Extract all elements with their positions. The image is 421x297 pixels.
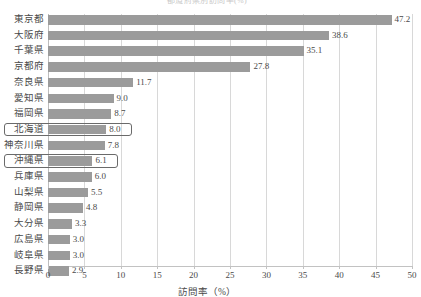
bar-row: 福岡県8.7: [0, 106, 414, 122]
category-label: 北海道: [0, 122, 44, 138]
category-label: 兵庫県: [0, 169, 44, 185]
bar-container: 35.1: [48, 43, 412, 59]
bar-container: 6.1: [48, 153, 412, 169]
category-label: 東京都: [0, 12, 44, 28]
bar-row: 京都府27.8: [0, 59, 414, 75]
bar-container: 3.3: [48, 216, 412, 232]
bar: [48, 31, 329, 41]
bar: [48, 188, 88, 198]
bar-value-label: 3.0: [70, 232, 84, 248]
bar-value-label: 7.8: [105, 138, 119, 154]
bar-row: 神奈川県7.8: [0, 138, 414, 154]
tickmark-30: [266, 266, 267, 269]
tickmark-40: [339, 266, 340, 269]
bar-row: 岐阜県3.0: [0, 248, 414, 264]
bar-row: 大阪府38.6: [0, 28, 414, 44]
bar-container: 9.0: [48, 91, 412, 107]
bar: [48, 94, 114, 104]
bar: [48, 46, 304, 56]
bar-value-label: 5.5: [88, 185, 102, 201]
bar-container: 7.8: [48, 138, 412, 154]
bar-value-label: 3.3: [72, 216, 86, 232]
bar: [48, 203, 83, 213]
bar-value-label: 47.2: [392, 12, 411, 28]
tickmark-20: [194, 266, 195, 269]
bar-value-label: 6.1: [92, 153, 106, 169]
bar-container: 11.7: [48, 75, 412, 91]
bar-container: 27.8: [48, 59, 412, 75]
bar-row: 奈良県11.7: [0, 75, 414, 91]
bar-value-label: 11.7: [133, 75, 151, 91]
bar-row: 長野県2.9: [0, 263, 414, 279]
tickmark-5: [84, 266, 85, 269]
bar: [48, 235, 70, 245]
x-tick-label: 40: [327, 270, 351, 280]
bar: [48, 219, 72, 229]
bar: [48, 251, 70, 261]
category-label: 神奈川県: [0, 138, 44, 154]
tickmark-15: [157, 266, 158, 269]
category-label: 大分県: [0, 216, 44, 232]
x-axis-title: 訪問率（%）: [0, 284, 414, 297]
bar-container: 3.0: [48, 232, 412, 248]
x-tick-label: 10: [109, 270, 133, 280]
bar-value-label: 27.8: [250, 59, 269, 75]
tickmark-25: [230, 266, 231, 269]
bar-value-label: 8.0: [106, 122, 120, 138]
category-label: 福岡県: [0, 106, 44, 122]
bar: [48, 141, 105, 151]
bar-row: 兵庫県6.0: [0, 169, 414, 185]
x-tick-label: 15: [145, 270, 169, 280]
bar-row: 静岡県4.8: [0, 200, 414, 216]
bar-value-label: 35.1: [304, 43, 323, 59]
category-label: 広島県: [0, 232, 44, 248]
x-tick-label: 50: [400, 270, 421, 280]
bar-container: 38.6: [48, 28, 412, 44]
bar: [48, 125, 106, 135]
category-label: 沖縄県: [0, 153, 44, 169]
bar-row: 愛知県9.0: [0, 91, 414, 107]
x-tick-label: 0: [36, 270, 60, 280]
bar-row: 千葉県35.1: [0, 43, 414, 59]
cut-off-title: 都道府県別訪問率(%): [0, 0, 414, 11]
bar-row: 沖縄県6.1: [0, 153, 414, 169]
category-label: 大阪府: [0, 28, 44, 44]
bar-row: 北海道8.0: [0, 122, 414, 138]
bar-row: 東京都47.2: [0, 12, 414, 28]
tickmark-35: [303, 266, 304, 269]
tickmark-45: [376, 266, 377, 269]
bar-container: 4.8: [48, 200, 412, 216]
category-label: 山梨県: [0, 185, 44, 201]
bar: [48, 78, 133, 88]
category-label: 奈良県: [0, 75, 44, 91]
bar-container: 8.0: [48, 122, 412, 138]
bar-container: 47.2: [48, 12, 412, 28]
tickmark-50: [412, 266, 413, 269]
x-tick-label: 35: [291, 270, 315, 280]
category-label: 愛知県: [0, 91, 44, 107]
bar-container: 3.0: [48, 248, 412, 264]
bar: [48, 109, 111, 119]
x-tick-label: 5: [72, 270, 96, 280]
bar-value-label: 38.6: [329, 28, 348, 44]
bar-container: 8.7: [48, 106, 412, 122]
bar-value-label: 9.0: [114, 91, 128, 107]
bar-container: 6.0: [48, 169, 412, 185]
bar-chart: 東京都47.2大阪府38.6千葉県35.1京都府27.8奈良県11.7愛知県9.…: [0, 12, 414, 297]
category-label: 千葉県: [0, 43, 44, 59]
bar-value-label: 6.0: [92, 169, 106, 185]
bar: [48, 62, 250, 72]
x-tick-label: 45: [364, 270, 388, 280]
tickmark-10: [121, 266, 122, 269]
bar-value-label: 8.7: [111, 106, 125, 122]
bar: [48, 172, 92, 182]
category-label: 静岡県: [0, 200, 44, 216]
x-tick-label: 30: [254, 270, 278, 280]
bar-value-label: 3.0: [70, 248, 84, 264]
category-label: 岐阜県: [0, 248, 44, 264]
x-tick-label: 25: [218, 270, 242, 280]
bar: [48, 15, 392, 25]
tickmark-0: [48, 266, 49, 269]
category-label: 京都府: [0, 59, 44, 75]
bar-row: 大分県3.3: [0, 216, 414, 232]
